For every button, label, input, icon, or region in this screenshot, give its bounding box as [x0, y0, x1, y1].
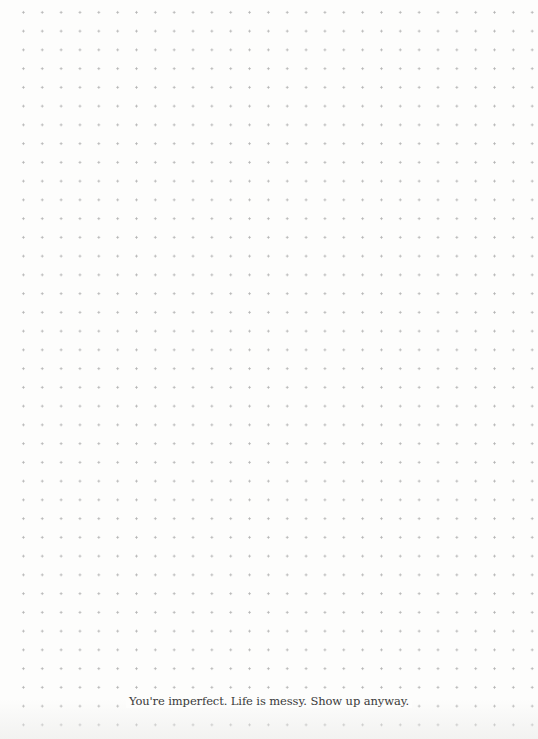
dot-grid [14, 3, 534, 728]
notebook-page: You're imperfect. Life is messy. Show up… [0, 0, 538, 739]
motto-text: You're imperfect. Life is messy. Show up… [126, 694, 412, 708]
footer-motto: You're imperfect. Life is messy. Show up… [0, 694, 538, 708]
